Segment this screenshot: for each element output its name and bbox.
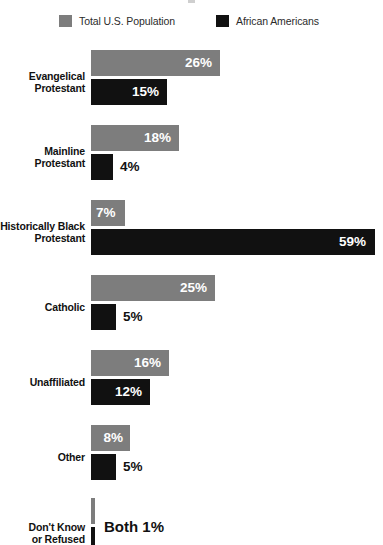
category-label: Evangelical Protestant [0,69,85,93]
chart-rows: Evangelical Protestant 26% 15% Mainline … [0,44,383,545]
bar-value-african-americans: 12% [115,379,150,405]
bar-value-african-americans: 5% [123,454,143,480]
bar-chart: Total U.S. Population African Americans … [0,0,383,545]
bar-african-americans [91,154,113,180]
category-label: Other [0,450,85,462]
chart-row: Don't Know or Refused Both 1% [0,494,383,545]
bar-african-americans [91,229,375,255]
category-label: Mainline Protestant [0,144,85,168]
legend-label-african-americans: African Americans [236,15,319,27]
chart-row: Other 8% 5% [0,419,383,494]
bar-value-both: Both 1% [104,512,164,542]
legend-item-total-us-population: Total U.S. Population [59,13,175,29]
chart-row: Evangelical Protestant 26% 15% [0,44,383,119]
category-label: Catholic [0,300,85,312]
bar-value-total: 26% [185,50,220,76]
bar-value-total: 25% [180,275,215,301]
bar-total [91,498,95,524]
bar-value-african-americans: 5% [123,304,143,330]
bar-value-total: 7% [96,200,116,226]
category-label: Historically Black Protestant [0,219,85,243]
bar-value-african-americans: 15% [132,79,167,105]
chart-row: Historically Black Protestant 7% 59% [0,194,383,269]
category-label: Don't Know or Refused [0,521,85,545]
bar-value-total: 18% [144,125,179,151]
chart-row: Catholic 25% 5% [0,269,383,344]
bar-value-total: 16% [134,350,169,376]
legend-swatch-gray [59,15,72,27]
legend-label-total-us-population: Total U.S. Population [79,15,175,27]
category-label: Unaffiliated [0,375,85,387]
legend-swatch-black [216,15,229,27]
chart-legend: Total U.S. Population African Americans [0,11,383,33]
bar-value-african-americans: 59% [339,229,375,255]
bar-value-total: 8% [103,425,130,451]
chart-row: Unaffiliated 16% 12% [0,344,383,419]
bar-african-americans [91,454,116,480]
bar-african-americans [91,304,116,330]
bar-value-african-americans: 4% [120,154,140,180]
chart-row: Mainline Protestant 18% 4% [0,119,383,194]
bar-african-americans [91,527,95,545]
top-crop-artifact [188,0,195,3]
legend-item-african-americans: African Americans [216,13,319,29]
